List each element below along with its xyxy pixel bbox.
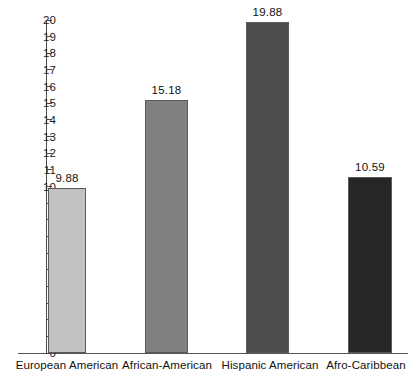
x-axis-line [18,353,408,354]
y-axis-tick-mark [46,153,52,154]
y-axis-tick-mark [46,69,52,70]
y-axis-tick: 16 [0,81,60,93]
y-axis-tick: 18 [0,47,60,59]
bar [246,22,289,353]
bar [48,188,86,353]
y-axis-tick: 14 [0,114,60,126]
y-axis-tick-mark [46,119,52,120]
x-axis-category-label: Hispanic American [212,358,328,373]
y-axis-tick: 19 [0,31,60,43]
bar [348,177,392,353]
y-axis-tick-mark [46,20,52,21]
y-axis-tick: 17 [0,64,60,76]
x-axis-category-label: European American [8,358,126,373]
bar-value-label: 19.88 [232,6,303,19]
y-axis-tick-mark [46,136,52,137]
y-axis-tick-mark [46,36,52,37]
y-axis-tick: 20 [0,14,60,26]
y-axis-tick: 13 [0,131,60,143]
y-axis-tick-mark [46,53,52,54]
bar-value-label: 10.59 [334,161,406,174]
bar-value-label: 15.18 [131,84,202,97]
plot-area: 01234567891011121314151617181920 9.8815.… [0,0,416,386]
y-axis-tick-mark [46,86,52,87]
x-axis-category-label: African-American [112,358,222,373]
bar-chart-figure: 01234567891011121314151617181920 9.8815.… [0,0,416,386]
bar-value-label: 9.88 [34,172,100,185]
x-axis-category-label: Afro-Caribbean [316,358,416,373]
y-axis-tick-mark [46,169,52,170]
y-axis-tick-mark [46,186,52,187]
y-axis-tick-mark [46,103,52,104]
bar [145,100,188,353]
y-axis-tick: 15 [0,97,60,109]
y-axis-tick: 12 [0,147,60,159]
